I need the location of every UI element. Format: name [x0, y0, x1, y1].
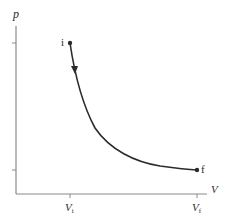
x-tick-label-vi: Vi	[65, 202, 74, 215]
direction-arrow-icon	[71, 66, 78, 74]
point-i-label: i	[61, 37, 64, 48]
x-tick-label-vf-main: V	[192, 201, 199, 213]
pv-diagram: p V i f Vi Vf	[0, 0, 228, 224]
x-tick-label-vf-sub: f	[199, 207, 201, 215]
point-f-label: f	[201, 164, 205, 175]
pv-diagram-svg	[0, 0, 228, 224]
x-axis-label: V	[211, 184, 218, 195]
y-axis-label: p	[13, 8, 19, 20]
point-f-marker	[195, 168, 199, 172]
point-i-marker	[68, 41, 72, 45]
process-curve	[70, 43, 197, 170]
x-tick-label-vf: Vf	[192, 202, 201, 215]
x-tick-label-vi-sub: i	[72, 207, 74, 215]
x-tick-label-vi-main: V	[65, 201, 72, 213]
